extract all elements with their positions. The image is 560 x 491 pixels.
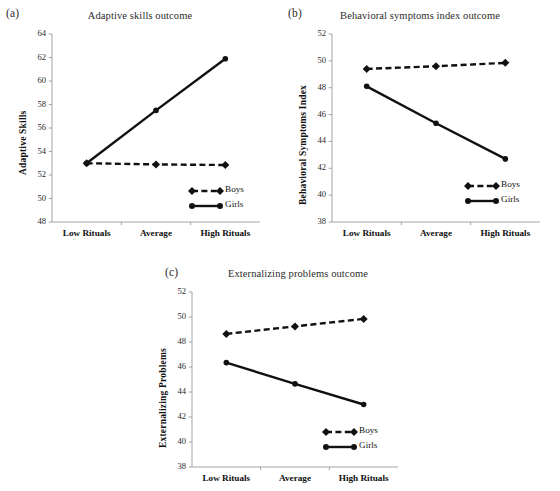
y-tick-label: 50: [18, 193, 46, 203]
marker-circle-girls: [361, 402, 367, 408]
marker-diamond-boys: [222, 330, 230, 338]
legend-marker-girls: [465, 198, 471, 204]
legend-label-girls: Girls: [225, 199, 243, 209]
legend-label-girls: Girls: [359, 440, 377, 450]
x-tick-label-average: Average: [396, 228, 476, 238]
legend-marker-boys: [188, 187, 196, 195]
y-tick-label: 52: [158, 286, 186, 296]
legend-marker-boys: [464, 182, 472, 190]
marker-circle-girls: [364, 84, 370, 90]
y-tick-label: 62: [18, 52, 46, 62]
y-axis-title: Externalizing Problems: [158, 348, 168, 448]
marker-diamond-boys: [432, 62, 440, 70]
x-tick-label-high-rituals: High Rituals: [185, 228, 265, 238]
y-axis-title: Behavioral Symptoms Index: [298, 85, 308, 205]
legend-marker-boys: [350, 428, 358, 436]
x-tick-label-low-rituals: Low Rituals: [327, 228, 407, 238]
marker-diamond-boys: [152, 160, 160, 168]
panel-behavioral-symptoms: (b) Behavioral symptoms index outcome 38…: [280, 0, 560, 245]
marker-circle-girls: [503, 156, 509, 162]
marker-diamond-boys: [501, 59, 509, 67]
legend-marker-boys: [492, 182, 500, 190]
legend-marker-girls: [323, 444, 329, 450]
panel-externalizing-problems: (c) Externalizing problems outcome 38404…: [140, 246, 420, 491]
x-tick-label-high-rituals: High Rituals: [324, 473, 404, 483]
legend-marker-girls: [493, 198, 499, 204]
y-tick-label: 38: [298, 216, 326, 226]
legend-marker-boys: [322, 428, 330, 436]
y-tick-label: 60: [18, 75, 46, 85]
legend-marker-girls: [217, 203, 223, 209]
y-axis-title: Adaptive Skills: [18, 110, 28, 175]
marker-diamond-boys: [363, 65, 371, 73]
y-tick-label: 48: [158, 336, 186, 346]
figure-root: (a) Adaptive skills outcome 485052545658…: [0, 0, 560, 491]
marker-circle-girls: [153, 108, 159, 114]
y-tick-label: 38: [158, 461, 186, 471]
x-tick-label-low-rituals: Low Rituals: [47, 228, 127, 238]
legend-marker-girls: [351, 444, 357, 450]
marker-circle-girls: [84, 160, 90, 166]
marker-diamond-boys: [291, 322, 299, 330]
y-tick-label: 50: [298, 55, 326, 65]
x-tick-label-average: Average: [116, 228, 196, 238]
marker-circle-girls: [224, 360, 230, 366]
marker-circle-girls: [433, 121, 439, 127]
legend-label-boys: Boys: [225, 184, 244, 194]
y-tick-label: 48: [18, 216, 46, 226]
marker-circle-girls: [223, 56, 229, 62]
legend-marker-girls: [189, 203, 195, 209]
y-tick-label: 58: [18, 99, 46, 109]
marker-circle-girls: [292, 381, 298, 387]
x-tick-label-high-rituals: High Rituals: [465, 228, 545, 238]
legend-label-boys: Boys: [501, 179, 520, 189]
legend-marker-boys: [216, 187, 224, 195]
y-tick-label: 52: [298, 28, 326, 38]
legend-label-girls: Girls: [501, 194, 519, 204]
legend-label-boys: Boys: [359, 425, 378, 435]
y-tick-label: 50: [158, 311, 186, 321]
marker-diamond-boys: [221, 161, 229, 169]
marker-diamond-boys: [360, 315, 368, 323]
panel-adaptive-skills: (a) Adaptive skills outcome 485052545658…: [0, 0, 280, 245]
y-tick-label: 64: [18, 28, 46, 38]
